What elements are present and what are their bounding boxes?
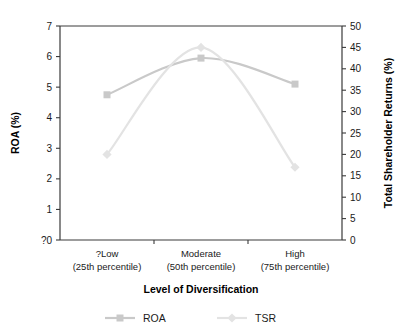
x-axis-category-sublabel: (50th percentile) bbox=[167, 261, 236, 272]
dual-axis-line-chart: ?0123456705101520253035404550?Low(25th p… bbox=[0, 0, 406, 334]
right-axis-tick-label: 25 bbox=[350, 128, 362, 139]
left-axis-title: ROA (%) bbox=[9, 112, 21, 154]
legend-swatch-marker-roa bbox=[117, 315, 124, 322]
right-axis-tick-label: 5 bbox=[350, 213, 356, 224]
data-point-tsr-1 bbox=[196, 43, 205, 52]
series-line-roa bbox=[107, 58, 295, 95]
right-axis-tick-label: 15 bbox=[350, 170, 362, 181]
chart-canvas: ?0123456705101520253035404550?Low(25th p… bbox=[0, 0, 406, 334]
left-axis-tick-label: ?0 bbox=[41, 235, 53, 246]
right-axis-tick-label: 50 bbox=[350, 21, 362, 32]
x-axis-category-label: ?Low bbox=[96, 248, 119, 259]
data-point-roa-2 bbox=[292, 81, 299, 88]
right-axis-tick-label: 0 bbox=[350, 235, 356, 246]
right-axis-tick-label: 20 bbox=[350, 149, 362, 160]
x-axis-category-label: High bbox=[285, 248, 305, 259]
right-axis-title: Total Shareholder Returns (%) bbox=[382, 58, 394, 208]
right-axis-tick-label: 30 bbox=[350, 106, 362, 117]
left-axis-tick-label: 7 bbox=[46, 21, 52, 32]
series-line-tsr bbox=[107, 47, 295, 167]
series-tsr bbox=[102, 43, 299, 172]
x-axis-category-sublabel: (75th percentile) bbox=[261, 261, 330, 272]
right-axis-tick-label: 35 bbox=[350, 85, 362, 96]
left-axis-tick-label: 3 bbox=[46, 143, 52, 154]
left-axis-tick-label: 5 bbox=[46, 82, 52, 93]
left-axis-tick-label: 2 bbox=[46, 173, 52, 184]
right-axis-tick-label: 45 bbox=[350, 42, 362, 53]
left-axis-tick-label: 4 bbox=[46, 112, 52, 123]
data-point-roa-0 bbox=[104, 91, 111, 98]
data-point-roa-1 bbox=[198, 55, 205, 62]
legend-item-tsr[interactable]: TSR bbox=[217, 312, 276, 324]
legend-label-roa: ROA bbox=[143, 312, 166, 324]
x-axis-title: Level of Diversification bbox=[144, 283, 259, 295]
x-axis-category-sublabel: (25th percentile) bbox=[73, 261, 142, 272]
x-axis-category-label: Moderate bbox=[181, 248, 221, 259]
left-axis-tick-label: 6 bbox=[46, 51, 52, 62]
series-roa bbox=[104, 55, 299, 99]
right-axis-tick-label: 10 bbox=[350, 192, 362, 203]
right-axis-tick-label: 40 bbox=[350, 63, 362, 74]
left-axis-tick-label: 1 bbox=[46, 204, 52, 215]
legend-swatch-marker-tsr bbox=[227, 313, 236, 322]
legend-item-roa[interactable]: ROA bbox=[105, 312, 166, 324]
legend-label-tsr: TSR bbox=[255, 312, 276, 324]
